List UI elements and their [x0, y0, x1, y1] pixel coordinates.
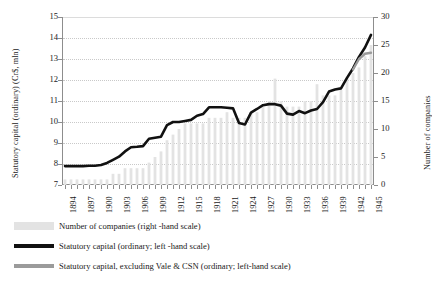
x-tick-mark: [113, 185, 114, 189]
y-tick-mark-right: [374, 17, 378, 18]
legend-label: Statutory capital (ordinary; left -hand …: [59, 241, 210, 251]
x-tick-mark: [371, 185, 372, 189]
y-tick-mark-right: [374, 157, 378, 158]
x-tick-mark: [305, 185, 306, 189]
y-tick-label-right: 5: [381, 151, 403, 161]
x-tick-mark: [323, 185, 324, 189]
x-tick-mark: [227, 185, 228, 189]
y-tick-mark-right: [374, 101, 378, 102]
x-tick-mark: [119, 185, 120, 189]
x-tick-mark: [281, 185, 282, 189]
x-tick-mark: [251, 185, 252, 189]
legend-item: Number of companies (right -hand scale): [14, 216, 414, 236]
x-tick-mark: [257, 185, 258, 189]
y-tick-label-left: 13: [36, 53, 58, 63]
x-tick-mark: [143, 185, 144, 189]
x-tick-mark: [293, 185, 294, 189]
y-tick-label-right: 15: [381, 95, 403, 105]
y-tick-mark-right: [374, 129, 378, 130]
x-tick-mark: [335, 185, 336, 189]
legend-swatch-bar: [14, 222, 54, 230]
y-tick-label-left: 11: [36, 95, 58, 105]
x-tick-label: 1906: [141, 196, 150, 213]
legend-item: Statutory capital (ordinary; left -hand …: [14, 236, 414, 256]
x-tick-mark: [203, 185, 204, 189]
line-statutory-capital: [65, 35, 371, 166]
x-tick-mark: [179, 185, 180, 189]
chart-legend: Number of companies (right -hand scale)S…: [14, 216, 414, 276]
x-tick-label: 1924: [249, 196, 258, 213]
legend-swatch-gray: [14, 264, 54, 267]
x-tick-label: 1915: [195, 196, 204, 213]
x-tick-mark: [89, 185, 90, 189]
x-tick-mark: [95, 185, 96, 189]
y-tick-label-left: 8: [36, 158, 58, 168]
y-tick-mark-right: [374, 185, 378, 186]
x-tick-label: 1930: [285, 196, 294, 213]
x-tick-label: 1918: [213, 196, 222, 213]
x-tick-mark: [185, 185, 186, 189]
x-tick-mark: [269, 185, 270, 189]
y-tick-label-left: 10: [36, 116, 58, 126]
x-axis-tick-marks: [62, 185, 374, 191]
x-tick-label: 1912: [177, 196, 186, 213]
x-tick-mark: [173, 185, 174, 189]
x-tick-mark: [107, 185, 108, 189]
x-tick-mark: [239, 185, 240, 189]
x-tick-mark: [209, 185, 210, 189]
x-tick-mark: [191, 185, 192, 189]
x-tick-label: 1945: [375, 196, 384, 213]
x-tick-label: 1897: [87, 196, 96, 213]
x-tick-mark: [275, 185, 276, 189]
legend-item: Statutory capital, excluding Vale & CSN …: [14, 256, 414, 276]
x-tick-label: 1927: [267, 196, 276, 213]
x-tick-mark: [317, 185, 318, 189]
x-tick-mark: [263, 185, 264, 189]
x-tick-label: 1909: [159, 196, 168, 213]
x-tick-mark: [101, 185, 102, 189]
x-tick-mark: [77, 185, 78, 189]
x-tick-mark: [215, 185, 216, 189]
x-tick-mark: [353, 185, 354, 189]
y-axis-title-right: Number of companies: [423, 95, 432, 170]
y-tick-label-left: 12: [36, 74, 58, 84]
x-tick-mark: [341, 185, 342, 189]
x-tick-mark: [359, 185, 360, 189]
y-tick-label-left: 7: [36, 179, 58, 189]
legend-label: Number of companies (right -hand scale): [59, 221, 201, 231]
x-tick-label: 1933: [303, 196, 312, 213]
x-tick-mark: [245, 185, 246, 189]
y-tick-label-right: 20: [381, 67, 403, 77]
x-tick-mark: [221, 185, 222, 189]
x-tick-label: 1936: [321, 196, 330, 213]
y-tick-label-right: 0: [381, 179, 403, 189]
y-tick-mark-right: [374, 73, 378, 74]
x-tick-mark: [167, 185, 168, 189]
y-tick-mark-right: [374, 45, 378, 46]
x-tick-label: 1939: [339, 196, 348, 213]
x-tick-mark: [71, 185, 72, 189]
x-tick-label: 1942: [357, 196, 366, 213]
x-tick-mark: [365, 185, 366, 189]
y-tick-label-right: 25: [381, 39, 403, 49]
y-tick-label-left: 9: [36, 137, 58, 147]
legend-swatch-black: [14, 244, 54, 247]
x-tick-mark: [137, 185, 138, 189]
line-series-group: [62, 17, 374, 185]
x-tick-label: 1900: [105, 196, 114, 213]
x-tick-label: 1921: [231, 196, 240, 213]
y-tick-label-right: 10: [381, 123, 403, 133]
y-tick-label-left: 14: [36, 32, 58, 42]
x-tick-mark: [311, 185, 312, 189]
x-tick-mark: [155, 185, 156, 189]
legend-label: Statutory capital, excluding Vale & CSN …: [59, 261, 291, 271]
x-tick-mark: [83, 185, 84, 189]
x-tick-mark: [65, 185, 66, 189]
y-tick-label-left: 15: [36, 11, 58, 21]
x-tick-mark: [287, 185, 288, 189]
x-tick-label: 1903: [123, 196, 132, 213]
x-tick-mark: [131, 185, 132, 189]
x-tick-mark: [347, 185, 348, 189]
x-tick-mark: [125, 185, 126, 189]
